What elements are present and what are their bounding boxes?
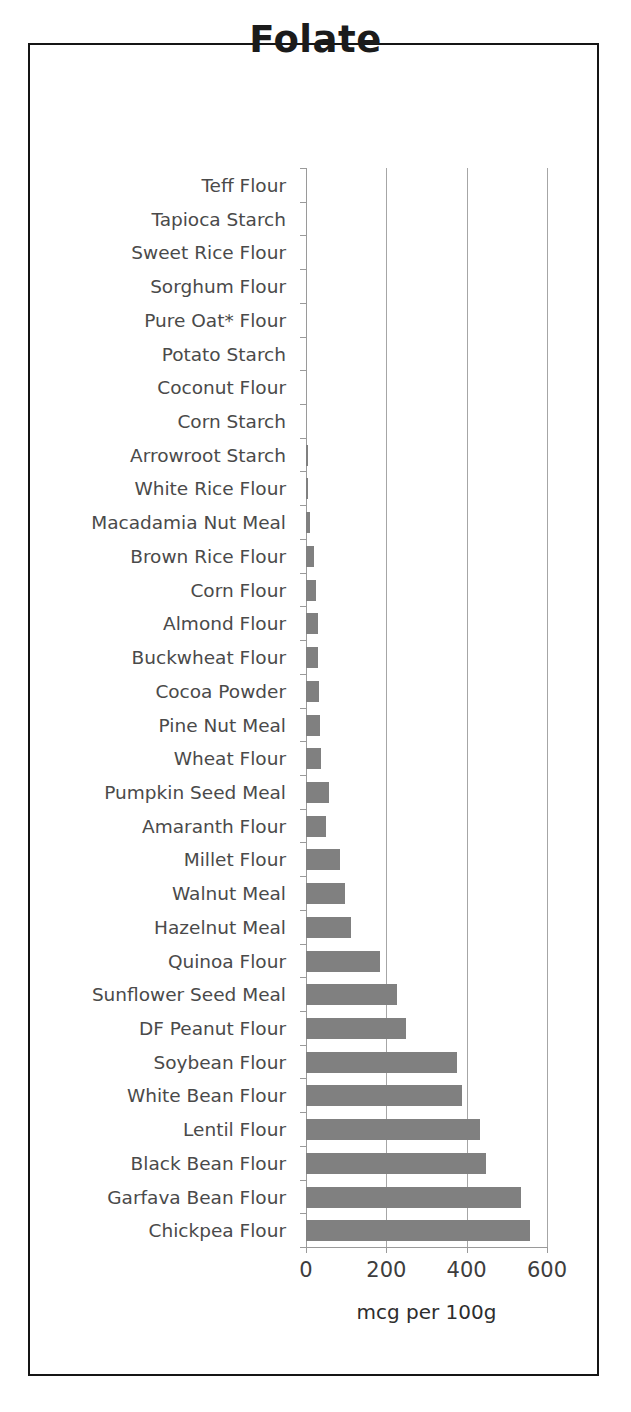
bar bbox=[306, 849, 340, 870]
category-label: Corn Flour bbox=[6, 573, 296, 609]
bar bbox=[306, 883, 345, 904]
bar-row bbox=[306, 842, 547, 878]
bar-row bbox=[306, 944, 547, 980]
category-label: Amaranth Flour bbox=[6, 809, 296, 845]
category-label: DF Peanut Flour bbox=[6, 1011, 296, 1047]
value-tick-label: 400 bbox=[432, 1258, 502, 1282]
bar-row bbox=[306, 640, 547, 676]
bar bbox=[306, 1187, 521, 1208]
bar-row bbox=[306, 809, 547, 845]
bar-row bbox=[306, 1078, 547, 1114]
category-label: Almond Flour bbox=[6, 606, 296, 642]
category-axis-labels: Teff FlourTapioca StarchSweet Rice Flour… bbox=[6, 168, 296, 1247]
bar-row bbox=[306, 539, 547, 575]
category-label: White Rice Flour bbox=[6, 471, 296, 507]
category-label: Pine Nut Meal bbox=[6, 708, 296, 744]
bar bbox=[306, 984, 397, 1005]
bar-row bbox=[306, 910, 547, 946]
bar-row bbox=[306, 303, 547, 339]
bar bbox=[306, 478, 308, 499]
category-label: Garfava Bean Flour bbox=[6, 1180, 296, 1216]
bar bbox=[306, 782, 329, 803]
category-label: Chickpea Flour bbox=[6, 1213, 296, 1249]
category-label: Black Bean Flour bbox=[6, 1146, 296, 1182]
bar bbox=[306, 512, 310, 533]
category-label: Millet Flour bbox=[6, 842, 296, 878]
value-tick bbox=[386, 1247, 387, 1253]
bar-row bbox=[306, 337, 547, 373]
category-label: Teff Flour bbox=[6, 168, 296, 204]
bar-row bbox=[306, 1112, 547, 1148]
bar-row bbox=[306, 1180, 547, 1216]
bar-row bbox=[306, 708, 547, 744]
bar-row bbox=[306, 1045, 547, 1081]
chart-title: Folate bbox=[0, 18, 631, 61]
bar bbox=[306, 748, 321, 769]
bar-row bbox=[306, 505, 547, 541]
bar bbox=[306, 1052, 457, 1073]
bar bbox=[306, 917, 351, 938]
bar bbox=[306, 1018, 406, 1039]
bar bbox=[306, 681, 319, 702]
category-label: Wheat Flour bbox=[6, 741, 296, 777]
bar bbox=[306, 1220, 530, 1241]
category-label: Lentil Flour bbox=[6, 1112, 296, 1148]
bar-row bbox=[306, 370, 547, 406]
bar-row bbox=[306, 404, 547, 440]
bar bbox=[306, 546, 314, 567]
plot-area bbox=[306, 168, 547, 1247]
category-label: Tapioca Starch bbox=[6, 202, 296, 238]
category-label: White Bean Flour bbox=[6, 1078, 296, 1114]
value-tick bbox=[547, 1247, 548, 1253]
gridline bbox=[547, 168, 548, 1247]
bar-row bbox=[306, 168, 547, 204]
category-label: Potato Starch bbox=[6, 337, 296, 373]
value-tick-label: 200 bbox=[351, 1258, 421, 1282]
bar-row bbox=[306, 775, 547, 811]
value-tick-label: 0 bbox=[271, 1258, 341, 1282]
category-label: Hazelnut Meal bbox=[6, 910, 296, 946]
bar bbox=[306, 647, 318, 668]
bar-row bbox=[306, 1011, 547, 1047]
category-label: Sorghum Flour bbox=[6, 269, 296, 305]
value-tick bbox=[306, 1247, 307, 1253]
bar-row bbox=[306, 1213, 547, 1249]
bar-row bbox=[306, 674, 547, 710]
bar bbox=[306, 445, 308, 466]
value-tick-label: 600 bbox=[512, 1258, 582, 1282]
category-label: Buckwheat Flour bbox=[6, 640, 296, 676]
category-label: Sunflower Seed Meal bbox=[6, 977, 296, 1013]
bar bbox=[306, 1085, 462, 1106]
bar-row bbox=[306, 471, 547, 507]
bar-row bbox=[306, 438, 547, 474]
category-label: Pure Oat* Flour bbox=[6, 303, 296, 339]
bar-row bbox=[306, 573, 547, 609]
bar-row bbox=[306, 1146, 547, 1182]
bar bbox=[306, 816, 326, 837]
bar-row bbox=[306, 202, 547, 238]
bar-row bbox=[306, 876, 547, 912]
category-label: Pumpkin Seed Meal bbox=[6, 775, 296, 811]
bar-row bbox=[306, 977, 547, 1013]
bar bbox=[306, 1153, 486, 1174]
bar bbox=[306, 715, 320, 736]
bar bbox=[306, 580, 316, 601]
bar bbox=[306, 1119, 480, 1140]
bar bbox=[306, 613, 318, 634]
bar bbox=[306, 951, 380, 972]
category-label: Macadamia Nut Meal bbox=[6, 505, 296, 541]
x-axis-title: mcg per 100g bbox=[306, 1300, 547, 1324]
category-label: Brown Rice Flour bbox=[6, 539, 296, 575]
category-label: Coconut Flour bbox=[6, 370, 296, 406]
bar-row bbox=[306, 606, 547, 642]
category-label: Walnut Meal bbox=[6, 876, 296, 912]
category-label: Quinoa Flour bbox=[6, 944, 296, 980]
chart-figure: Folate Teff FlourTapioca StarchSweet Ric… bbox=[0, 0, 631, 1412]
value-tick bbox=[467, 1247, 468, 1253]
bar-row bbox=[306, 235, 547, 271]
bar-row bbox=[306, 741, 547, 777]
category-label: Cocoa Powder bbox=[6, 674, 296, 710]
category-label: Corn Starch bbox=[6, 404, 296, 440]
category-label: Arrowroot Starch bbox=[6, 438, 296, 474]
bar-row bbox=[306, 269, 547, 305]
